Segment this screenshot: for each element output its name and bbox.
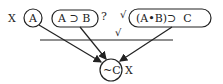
check-mark-inference: √ <box>115 27 122 38</box>
conclusion-not-c: ~C <box>100 59 122 81</box>
premise-a-label: A <box>28 12 38 25</box>
arrow-from-ab-implies-c <box>120 27 172 61</box>
check-mark-top: √ <box>120 9 127 20</box>
premise-a-implies-b-label: A ⊃ B <box>57 12 90 25</box>
arrow-from-a <box>39 25 101 62</box>
premise-a: A <box>24 9 42 27</box>
arrow-from-a-implies-b <box>80 27 106 59</box>
deduction-diagram: X A A ⊃ B ? √ (A•B)⊃ C √ ~C X <box>0 0 223 84</box>
premise-a-implies-b: A ⊃ B <box>52 10 98 27</box>
conclusion-label: ~C <box>103 64 121 77</box>
x-mark-left: X <box>8 12 16 25</box>
question-mark: ? <box>101 10 107 23</box>
premise-ab-implies-c-label: (A•B)⊃ C <box>136 12 192 25</box>
premise-ab-implies-c: (A•B)⊃ C <box>129 9 211 27</box>
x-mark-right: X <box>125 64 133 77</box>
